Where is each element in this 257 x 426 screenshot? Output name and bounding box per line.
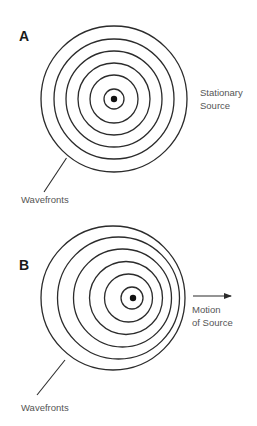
wavefront-ring-b-4 xyxy=(74,249,172,347)
wavefronts-pointer-a xyxy=(44,158,67,192)
wavefront-ring-b-6 xyxy=(41,226,185,370)
panel-a-letter: A xyxy=(19,28,29,44)
motion-label-line2: of Source xyxy=(192,317,233,328)
source-dot-b xyxy=(130,295,136,301)
wavefronts-pointer-b xyxy=(37,360,65,395)
source-dot-a xyxy=(111,96,117,102)
wavefront-ring-b-2 xyxy=(105,274,153,322)
panel-b-letter: B xyxy=(19,257,29,273)
panel-a-stationary-source: A Stationary Source Wavefronts xyxy=(19,26,243,205)
wavefronts-label-a: Wavefronts xyxy=(21,194,69,205)
stationary-label-line2: Source xyxy=(200,100,230,111)
wavefronts-label-b: Wavefronts xyxy=(21,402,69,413)
stationary-label-line1: Stationary xyxy=(200,87,243,98)
wavefront-ring-b-3 xyxy=(90,262,163,335)
wavefront-ring-b-5 xyxy=(58,237,180,359)
panel-b-moving-source: B Motion of Source Wavefronts xyxy=(19,226,233,413)
wavefront-rings-b xyxy=(41,226,185,370)
doppler-diagram: A Stationary Source Wavefronts B Motion … xyxy=(0,0,257,426)
motion-label-line1: Motion xyxy=(192,304,221,315)
